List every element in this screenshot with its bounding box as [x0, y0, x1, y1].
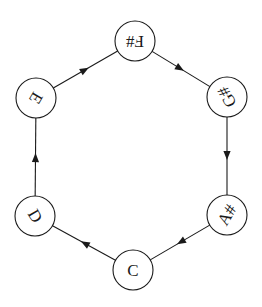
arrowhead-icon — [32, 153, 39, 162]
edge-asharp-to-c — [150, 225, 209, 260]
edge-fsharp-to-gsharp — [152, 51, 210, 86]
node-fsharp: F# — [115, 21, 155, 61]
nodes-layer: F#G#A#CDE — [15, 21, 247, 290]
node-asharp: A# — [207, 195, 247, 235]
edge-d-to-e — [32, 118, 39, 196]
diagram-canvas: F#G#A#CDE — [0, 0, 262, 307]
arrowhead-icon — [223, 151, 230, 160]
edge-c-to-d — [53, 226, 116, 261]
node-label: F# — [126, 32, 144, 51]
node-d: D — [15, 196, 55, 236]
node-c: C — [113, 250, 153, 290]
arrowhead-icon — [177, 237, 187, 245]
node-gsharp: G# — [207, 77, 247, 117]
whole-tone-cycle-diagram: F#G#A#CDE — [0, 0, 262, 307]
node-e: E — [16, 78, 56, 118]
edges-layer — [32, 51, 231, 260]
arrowhead-icon — [79, 68, 89, 76]
arrowhead-icon — [81, 241, 91, 248]
edge-e-to-fsharp — [53, 51, 117, 88]
arrowhead-icon — [174, 63, 184, 71]
node-label: C — [127, 261, 138, 280]
edge-gsharp-to-asharp — [223, 117, 230, 195]
